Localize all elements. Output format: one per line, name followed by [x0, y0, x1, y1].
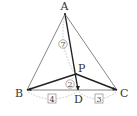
ratio-ap: 7	[60, 40, 65, 49]
ratio-dc: 3	[96, 95, 101, 104]
ratio-bd: 4	[49, 95, 54, 104]
geometry-diagram: A B C P D 7 2 4 3	[0, 0, 137, 116]
label-c: C	[120, 87, 128, 100]
ratio-pd: 2	[67, 80, 72, 89]
segment-ad	[65, 14, 78, 90]
arrow-at-d-icon	[76, 86, 80, 90]
point-a-dot	[64, 13, 66, 15]
label-d: D	[74, 93, 83, 106]
label-a: A	[60, 0, 70, 13]
side-ab	[27, 14, 65, 90]
label-p: P	[78, 62, 86, 75]
point-p-dot	[75, 73, 77, 75]
label-b: B	[15, 87, 23, 100]
segment-pc	[76, 74, 117, 90]
